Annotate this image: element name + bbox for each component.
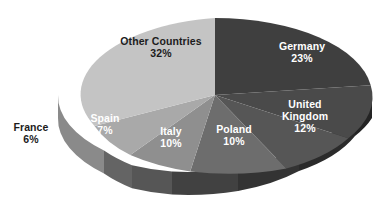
pie-top-face <box>81 18 373 174</box>
pie-slice-germany <box>215 18 371 95</box>
pie-wall-france <box>104 151 132 189</box>
pie-chart-graphic <box>0 0 385 209</box>
pie-wall-spain <box>132 165 172 194</box>
pie-chart: Other Countries 32% Germany 23% United K… <box>0 0 385 209</box>
